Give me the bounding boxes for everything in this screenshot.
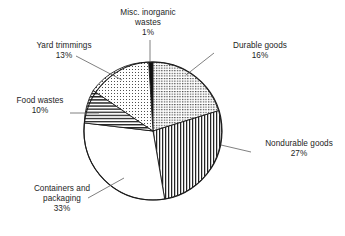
pie-label-durable-line1: Durable goods <box>218 41 302 51</box>
pie-label-misc-line2: wastes <box>104 18 192 28</box>
pie-label-containers-line1: Containers and <box>16 184 108 194</box>
pie-label-nondurable-goods: Nondurable goods 27% <box>255 139 343 159</box>
pie-label-food-wastes: Food wastes 10% <box>4 96 76 116</box>
leader-line-durable-goods <box>186 53 214 75</box>
pie-label-misc-inorganic-wastes: Misc. inorganic wastes 1% <box>104 8 192 39</box>
pie-label-yard-line1: Yard trimmings <box>22 41 106 51</box>
pie-chart-figure: Misc. inorganic wastes 1% Yard trimmings… <box>0 0 345 236</box>
pie-label-misc-value: 1% <box>104 28 192 38</box>
pie-label-durable-goods: Durable goods 16% <box>218 41 302 61</box>
pie-label-food-line1: Food wastes <box>4 96 76 106</box>
pie-label-containers-value: 33% <box>16 204 108 214</box>
leader-line-nondurable-goods <box>221 145 251 152</box>
pie-label-durable-value: 16% <box>218 51 302 61</box>
pie-label-nondurable-line1: Nondurable goods <box>255 139 343 149</box>
pie-label-yard-value: 13% <box>22 51 106 61</box>
pie-label-containers-and-packaging: Containers and packaging 33% <box>16 184 108 215</box>
pie-label-containers-line2: packaging <box>16 194 108 204</box>
pie-label-food-value: 10% <box>4 106 76 116</box>
pie-label-misc-line1: Misc. inorganic <box>104 8 192 18</box>
pie-label-yard-trimmings: Yard trimmings 13% <box>22 41 106 61</box>
pie-label-nondurable-value: 27% <box>255 149 343 159</box>
